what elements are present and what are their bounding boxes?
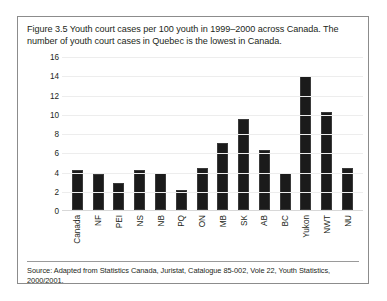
x-axis-label-slot: NF — [88, 213, 109, 253]
gridline — [62, 76, 363, 77]
y-axis-tick-label: 2 — [33, 187, 59, 196]
bar-chart: 0246810121416 CanadaNFPEINSNBPQONMBSKABB… — [27, 57, 363, 253]
x-axis-label-slot: MB — [212, 213, 233, 253]
gridline — [62, 134, 363, 135]
x-axis-tick-label: NWT — [322, 215, 331, 234]
x-axis-label-slot: PQ — [171, 213, 192, 253]
gridline — [62, 115, 363, 116]
gridline — [62, 96, 363, 97]
x-axis-label-slot: Yukon — [296, 213, 317, 253]
bar — [176, 190, 187, 210]
bar — [321, 112, 332, 210]
x-axis-tick-label: PQ — [177, 215, 186, 227]
x-axis-label-slot: Canada — [67, 213, 88, 253]
y-axis-tick-label: 4 — [33, 168, 59, 177]
x-axis-tick-label: ON — [198, 215, 207, 227]
bar — [134, 170, 145, 210]
x-axis-tick-label: NF — [94, 215, 103, 226]
x-axis-tick-label: NU — [343, 215, 352, 227]
x-axis-tick-label: PEI — [114, 215, 123, 228]
x-axis-tick-label: Canada — [73, 215, 82, 244]
bar — [113, 183, 124, 210]
figure-card: Figure 3.5 Youth court cases per 100 you… — [17, 16, 369, 284]
gridline — [62, 57, 363, 58]
y-axis: 0246810121416 — [27, 57, 59, 211]
x-axis-tick-label: NS — [135, 215, 144, 226]
x-axis-tick-label: BC — [281, 215, 290, 226]
bar — [342, 168, 353, 210]
gridline — [62, 173, 363, 174]
figure-caption: Figure 3.5 Youth court cases per 100 you… — [27, 23, 363, 48]
x-axis-tick-label: Yukon — [301, 215, 310, 238]
y-axis-tick-label: 6 — [33, 149, 59, 158]
x-axis-label-slot: NB — [150, 213, 171, 253]
axis-baseline — [62, 210, 363, 211]
plot-grid — [62, 57, 363, 211]
x-axis-labels: CanadaNFPEINSNBPQONMBSKABBCYukonNWTNU — [62, 213, 363, 253]
bar — [72, 170, 83, 210]
x-axis-tick-label: SK — [239, 215, 248, 226]
bar — [238, 119, 249, 210]
x-axis-label-slot: NU — [337, 213, 358, 253]
x-axis-tick-label: AB — [260, 215, 269, 226]
gridline — [62, 153, 363, 154]
bar — [259, 150, 270, 210]
x-axis-tick-label: NB — [156, 215, 165, 226]
y-axis-tick-label: 10 — [33, 110, 59, 119]
source-divider — [27, 261, 359, 262]
x-axis-label-slot: NWT — [316, 213, 337, 253]
x-axis-label-slot: NS — [129, 213, 150, 253]
x-axis-label-slot: BC — [275, 213, 296, 253]
x-axis-tick-label: MB — [218, 215, 227, 227]
gridline — [62, 192, 363, 193]
y-axis-tick-label: 16 — [33, 53, 59, 62]
x-axis-label-slot: AB — [254, 213, 275, 253]
x-axis-label-slot: PEI — [109, 213, 130, 253]
x-axis-label-slot: ON — [192, 213, 213, 253]
y-axis-tick-label: 8 — [33, 130, 59, 139]
bar — [197, 168, 208, 210]
y-axis-tick-label: 0 — [33, 207, 59, 216]
y-axis-tick-label: 12 — [33, 91, 59, 100]
figure-source: Source: Adapted from Statistics Canada, … — [27, 266, 363, 286]
x-axis-label-slot: SK — [233, 213, 254, 253]
y-axis-tick-label: 14 — [33, 72, 59, 81]
